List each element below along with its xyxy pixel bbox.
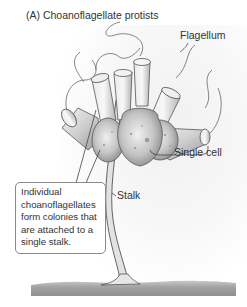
stalk-base (101, 274, 140, 285)
label-stalk: Stalk (117, 189, 140, 201)
callout-box: Individual choanoflagellates form coloni… (15, 182, 106, 254)
callout-text: Individual choanoflagellates form coloni… (21, 186, 97, 247)
cell-front-collar (134, 62, 150, 106)
figure-canvas: (A) Choanoflagellate protists (0, 0, 247, 307)
label-single-cell: Single cell (174, 146, 222, 158)
label-flagellum: Flagellum (180, 29, 226, 41)
